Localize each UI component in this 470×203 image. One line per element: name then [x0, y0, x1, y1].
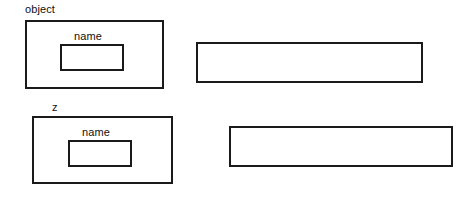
- wide-rectangle-bottom: [229, 126, 453, 167]
- group-label-z: z: [52, 101, 58, 114]
- inner-rectangle-z-name: [68, 140, 132, 167]
- inner-rectangle-object-name: [60, 44, 124, 71]
- inner-label-object-name: name: [74, 30, 102, 43]
- group-label-object: object: [25, 3, 55, 16]
- diagram-canvas: object name z name: [0, 0, 470, 203]
- wide-rectangle-top: [196, 42, 423, 83]
- inner-label-z-name: name: [82, 126, 110, 139]
